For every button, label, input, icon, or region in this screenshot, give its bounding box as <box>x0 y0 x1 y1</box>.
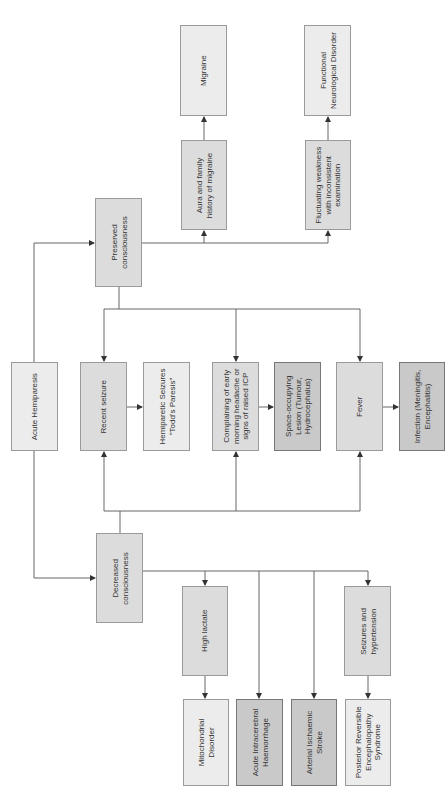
node-label: Fever <box>355 364 365 450</box>
node-label: Space-occupying Lesion (Tumour, Hydrocep… <box>283 364 312 450</box>
node-label: Preserved consciousness <box>109 200 128 286</box>
node-label: Migraine <box>199 28 209 114</box>
node-mitochondrial-disorder: Mitochondrial Disorder <box>183 699 229 786</box>
node-label: Aura and family history of migraine <box>195 142 214 228</box>
node-pres: Posterior Reversible Encephalopathy Synd… <box>345 699 391 786</box>
node-infection: Infection (Meningitis, Encephalitis) <box>399 362 445 451</box>
node-preserved-consciousness: Preserved consciousness <box>95 198 142 287</box>
node-raised-icp: Complaining of early morning headache or… <box>212 362 259 451</box>
node-label: Functional Neurological Disorder <box>318 28 337 114</box>
node-label: Fluctuating weakness with inconsistent e… <box>314 142 343 228</box>
node-migraine: Migraine <box>180 25 227 116</box>
node-todds-paresis: Hemiparetic Seizures "Todd's Paresis" <box>143 362 190 451</box>
node-aura-family-history: Aura and family history of migraine <box>181 140 227 230</box>
node-label: Acute Hemiparesis <box>30 364 40 450</box>
node-fluctuating-weakness: Fluctuating weakness with inconsistent e… <box>305 140 351 230</box>
node-label: High lactate <box>200 588 210 674</box>
node-space-occupying-lesion: Space-occupying Lesion (Tumour, Hydrocep… <box>274 362 321 451</box>
node-recent-seizure: Recent seizure <box>80 362 127 451</box>
node-label: Acute Intracerebral Haemorrhage <box>250 700 269 786</box>
node-label: Recent seizure <box>99 364 109 450</box>
node-high-lactate: High lactate <box>182 586 228 676</box>
node-label: Posterior Reversible Encephalopathy Synd… <box>354 700 383 786</box>
node-fever: Fever <box>336 362 383 451</box>
node-arterial-ischaemic-stroke: Arterial Ischaemic Stroke <box>291 699 337 786</box>
flowchart-canvas: Migraine Aura and family history of migr… <box>0 0 448 802</box>
node-label: Mitochondrial Disorder <box>197 700 216 786</box>
node-label: Arterial Ischaemic Stroke <box>305 700 324 786</box>
node-seizures-hypertension: Seizures and hypertension <box>344 586 391 676</box>
node-label: Complaining of early morning headache or… <box>221 364 250 450</box>
node-label: Decreased consciousness <box>110 535 129 621</box>
node-label: Infection (Meningitis, Encephalitis) <box>413 364 432 450</box>
node-acute-hemiparesis: Acute Hemiparesis <box>11 362 58 451</box>
node-label: Hemiparetic Seizures "Todd's Paresis" <box>157 364 176 450</box>
node-decreased-consciousness: Decreased consciousness <box>96 533 143 623</box>
node-functional-neurological-disorder: Functional Neurological Disorder <box>304 25 351 116</box>
node-label: Seizures and hypertension <box>358 588 377 674</box>
node-intracerebral-haemorrhage: Acute Intracerebral Haemorrhage <box>236 699 283 786</box>
